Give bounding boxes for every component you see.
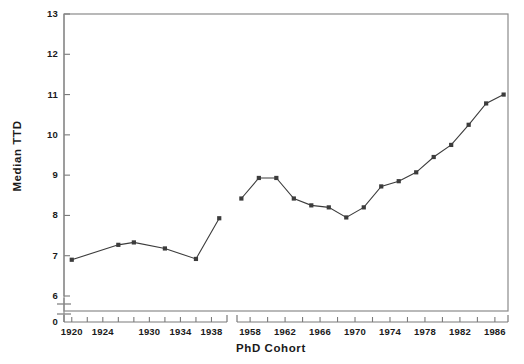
data-series [239, 92, 505, 219]
data-point-marker [274, 176, 278, 180]
data-point-marker [239, 196, 243, 200]
y-axis-ticks [64, 14, 70, 296]
data-point-marker [362, 205, 366, 209]
y-axis-title: Median TTD [11, 108, 23, 204]
data-point-marker [163, 246, 167, 250]
y-tick-label: 12 [36, 48, 58, 59]
data-point-marker [257, 176, 261, 180]
chart-figure: Median TTD PhD Cohort 6789101112130 1920… [0, 0, 524, 364]
y-tick-label: 13 [36, 8, 58, 19]
data-point-marker [327, 205, 331, 209]
data-point-marker [484, 101, 488, 105]
data-point-marker [432, 155, 436, 159]
y-tick-label: 10 [36, 129, 58, 140]
data-series-layer [70, 92, 506, 261]
x-tick-label: 1986 [475, 326, 515, 337]
data-series [70, 216, 222, 262]
data-point-marker [344, 215, 348, 219]
y-tick-label: 9 [36, 169, 58, 180]
data-point-marker [397, 179, 401, 183]
series-line [72, 218, 219, 259]
plot-border [64, 14, 508, 311]
x-axis-ticks [72, 317, 495, 322]
x-axis-title: PhD Cohort [236, 342, 306, 354]
y-tick-label: 11 [36, 89, 58, 100]
x-tick-label: 1938 [191, 326, 231, 337]
data-point-marker [449, 143, 453, 147]
x-axis-segments [64, 315, 508, 322]
data-point-marker [414, 170, 418, 174]
data-point-marker [217, 216, 221, 220]
plot-frame [64, 14, 508, 311]
data-point-marker [116, 243, 120, 247]
y-tick-label: 8 [36, 209, 58, 220]
x-tick-label: 1924 [83, 326, 123, 337]
data-point-marker [132, 240, 136, 244]
data-point-marker [292, 196, 296, 200]
data-point-marker [70, 258, 74, 262]
data-point-marker [467, 123, 471, 127]
data-point-marker [502, 92, 506, 96]
data-point-marker [309, 203, 313, 207]
data-point-marker [379, 184, 383, 188]
y-tick-label: 7 [36, 250, 58, 261]
series-line [241, 95, 503, 218]
data-point-marker [194, 257, 198, 261]
y-tick-label: 6 [36, 290, 58, 301]
chart-canvas [0, 0, 524, 364]
